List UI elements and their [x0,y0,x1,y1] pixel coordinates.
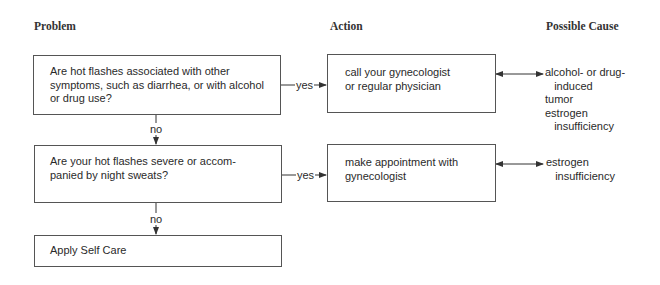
yes-label-2: yes [296,169,315,181]
yes-label-1: yes [295,79,314,91]
problem-text-1: Are hot flashes associated with other sy… [50,65,264,106]
self-care-text: Apply Self Care [50,244,126,258]
no-label-1: no [150,123,162,135]
no-label-2: no [150,213,162,225]
action-text-1: call your gynecologist or regular physic… [345,66,450,93]
action-text-2: make appointment with gynecologist [345,156,458,183]
problem-text-2: Are your hot flashes severe or accom- pa… [50,155,236,182]
cause-text-2: estrogen insufficiency [546,156,615,183]
cause-text-1: alcohol- or drug- induced tumor estrogen… [545,66,625,134]
